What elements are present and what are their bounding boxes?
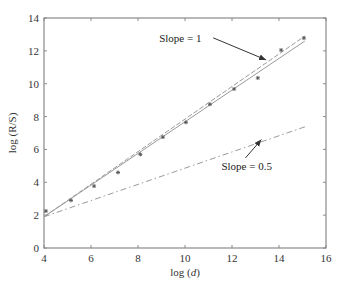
plot-border: [44, 18, 326, 248]
data-point-star-icon: [44, 209, 48, 213]
data-point-star-icon: [69, 198, 73, 202]
x-axis-ticks: 46810121416: [41, 18, 332, 264]
x-tick-label: 12: [227, 252, 238, 264]
data-point-star-icon: [232, 87, 236, 91]
x-tick-label: 10: [180, 252, 192, 264]
data-point-star-icon: [116, 170, 120, 174]
slope-1-reference-line: [44, 36, 305, 217]
data-point-star-icon: [208, 102, 212, 106]
data-point-star-icon: [92, 184, 96, 188]
data-point-star-icon: [184, 120, 188, 124]
y-axis-label: log (R/S): [6, 112, 19, 153]
reference-lines: [44, 36, 306, 217]
y-tick-label: 14: [28, 12, 40, 24]
y-tick-label: 12: [28, 45, 39, 57]
y-tick-label: 6: [34, 143, 40, 155]
data-point-star-icon: [161, 135, 165, 139]
x-axis-label: log (d): [170, 266, 200, 279]
y-tick-label: 0: [34, 242, 40, 254]
annotations: Slope = 1Slope = 0.5: [159, 32, 272, 172]
x-tick-label: 16: [321, 252, 333, 264]
annotation-arrow-icon: [213, 38, 266, 60]
annotation-label: Slope = 1: [159, 32, 201, 44]
x-tick-label: 6: [88, 252, 94, 264]
data-point-star-icon: [256, 76, 260, 80]
x-tick-label: 4: [41, 252, 47, 264]
x-tick-label: 8: [135, 252, 141, 264]
chart: 46810121416 02468101214 Slope = 1Slope =…: [0, 0, 347, 290]
annotation-label: Slope = 0.5: [221, 160, 272, 172]
y-tick-label: 10: [28, 78, 40, 90]
annotation-arrow-icon: [245, 140, 261, 158]
y-tick-label: 8: [34, 111, 40, 123]
data-point-star-icon: [302, 36, 306, 40]
data-point-star-icon: [138, 152, 142, 156]
plot-frame: [44, 18, 326, 248]
y-tick-label: 4: [34, 176, 40, 188]
fitted-line-line: [44, 41, 305, 217]
data-point-star-icon: [279, 48, 283, 52]
y-tick-label: 2: [34, 209, 40, 221]
x-tick-label: 14: [274, 252, 286, 264]
